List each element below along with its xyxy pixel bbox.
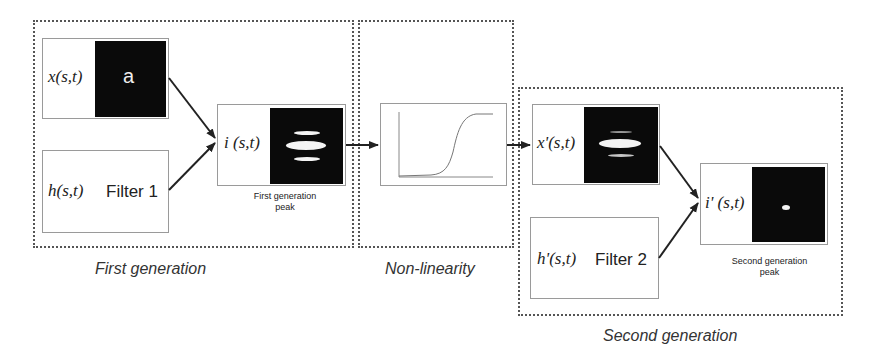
second-generation-label: Second generation	[603, 327, 737, 345]
connector-arrows	[0, 0, 878, 356]
non-linearity-label: Non-linearity	[385, 260, 475, 278]
first-generation-label: First generation	[95, 260, 206, 278]
